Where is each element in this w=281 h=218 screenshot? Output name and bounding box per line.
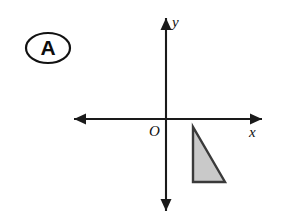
figure-container: A x y O <box>0 0 281 218</box>
badge-letter: A <box>40 36 55 59</box>
y-axis-label: y <box>170 14 179 30</box>
origin-label: O <box>149 123 160 139</box>
x-axis-label: x <box>248 124 256 140</box>
coordinate-plane-diagram: A x y O <box>0 0 281 218</box>
figure-label-badge: A <box>26 33 70 63</box>
